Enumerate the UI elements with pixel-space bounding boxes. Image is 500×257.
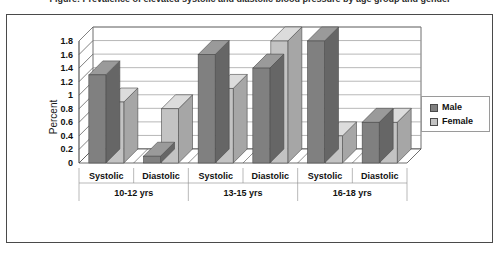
figure-frame: Percent 00.20.40.60.811.21.41.61.8 Systo… [6, 14, 493, 243]
x-axis-group-label: 16-18 yrs [317, 188, 387, 199]
legend-item-male: Male [430, 101, 489, 114]
legend-item-female: Female [430, 115, 489, 128]
x-axis-group-label: 13-15 yrs [208, 188, 278, 199]
y-axis-tick-label: 1 [47, 90, 73, 100]
y-axis-tick-label: 0.8 [47, 104, 73, 114]
legend-label-female: Female [442, 117, 473, 126]
y-axis-tick-label: 1.4 [47, 63, 73, 73]
x-axis-category-label: Systolic [186, 171, 246, 182]
legend-swatch-female [430, 118, 438, 126]
legend-label-male: Male [442, 103, 462, 112]
y-axis-tick-label: 1.2 [47, 77, 73, 87]
y-axis-tick-label: 0.2 [47, 144, 73, 154]
x-axis-category-label: Systolic [76, 171, 136, 182]
figure-caption-strip: Figure: Prevalence of elevated systolic … [0, 0, 500, 5]
x-axis-category-label: Diastolic [131, 171, 191, 182]
figure-caption-text: Figure: Prevalence of elevated systolic … [0, 0, 500, 5]
x-axis-category-label: Diastolic [350, 171, 410, 182]
y-axis-tick-label: 1.6 [47, 50, 73, 60]
x-axis-category-label: Systolic [295, 171, 355, 182]
legend-swatch-male [430, 104, 438, 112]
x-axis-group-label: 10-12 yrs [99, 188, 169, 199]
y-axis-tick-label: 0.4 [47, 131, 73, 141]
chart-legend: Male Female [421, 96, 490, 132]
y-axis-tick-label: 1.8 [47, 36, 73, 46]
y-axis-tick-label: 0.6 [47, 117, 73, 127]
x-axis-category-label: Diastolic [240, 171, 300, 182]
y-axis-tick-label: 0 [47, 158, 73, 168]
